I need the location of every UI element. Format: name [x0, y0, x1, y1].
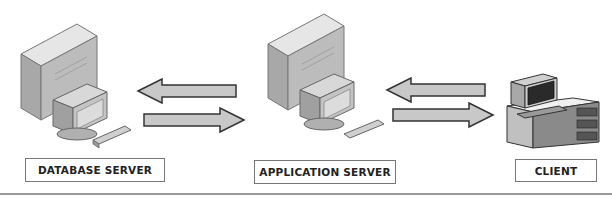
arrow-client-to-app [385, 76, 489, 104]
client-label: CLIENT [515, 159, 597, 182]
database-server-illustration [15, 22, 145, 150]
arrow-left-icon [136, 77, 240, 105]
arrow-right-icon [391, 101, 495, 129]
bottom-divider [0, 193, 612, 195]
application-server-illustration [262, 12, 392, 140]
application-server-label: APPLICATION SERVER [254, 160, 396, 184]
arrow-database-to-app [142, 106, 246, 134]
server-tower-with-monitor-icon [262, 12, 392, 140]
client-illustration [503, 70, 603, 150]
arrow-app-to-database [136, 77, 240, 105]
server-tower-with-monitor-icon [15, 22, 145, 150]
database-server-label: DATABASE SERVER [25, 158, 165, 182]
arrow-left-icon [385, 76, 489, 104]
arrow-right-icon [142, 106, 246, 134]
arrow-app-to-client [391, 101, 495, 129]
workstation-terminal-icon [503, 70, 603, 150]
